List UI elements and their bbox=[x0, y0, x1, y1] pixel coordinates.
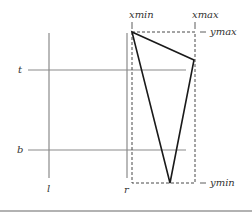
label-ymax: ymax bbox=[209, 26, 237, 37]
label-xmin: xmin bbox=[129, 9, 154, 20]
label-xmax: xmax bbox=[192, 9, 219, 20]
label-l: l bbox=[47, 183, 50, 194]
label-b: b bbox=[17, 144, 23, 155]
label-r: r bbox=[124, 184, 130, 195]
diagram-canvas: t b l r xmin xmax ymax ymin bbox=[0, 0, 252, 215]
label-ymin: ymin bbox=[209, 177, 235, 188]
triangle bbox=[132, 32, 194, 183]
label-t: t bbox=[18, 64, 23, 75]
